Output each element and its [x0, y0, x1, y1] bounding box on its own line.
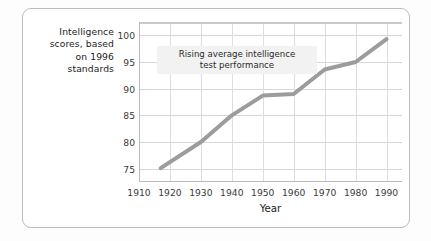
annotation-line-1: Rising average intelligence [161, 49, 313, 60]
x-axis-tick-label: 1950 [246, 187, 280, 198]
x-axis-tick-label: 1940 [215, 187, 249, 198]
x-axis-tick-label: 1980 [339, 187, 373, 198]
x-axis-tick-label: 1960 [277, 187, 311, 198]
y-axis-tick-label: 85 [101, 110, 135, 121]
x-axis-tick-label: 1910 [122, 187, 156, 198]
plot-area: Rising average intelligence test perform… [139, 22, 402, 182]
x-axis-title: Year [139, 203, 402, 214]
y-axis-tick-label: 80 [101, 137, 135, 148]
y-axis-tick-label: 90 [101, 83, 135, 94]
y-axis-tick-label: 100 [101, 30, 135, 41]
x-axis-tick-label: 1990 [370, 187, 404, 198]
y-axis-tick-label: 75 [101, 163, 135, 174]
y-axis-tick-labels: 7580859095100 [99, 22, 135, 182]
chart-annotation: Rising average intelligence test perform… [157, 46, 317, 74]
x-axis-tick-label: 1920 [153, 187, 187, 198]
x-axis-tick-labels: 191019201930194019501960197019801990 [139, 187, 402, 201]
annotation-line-2: test performance [161, 60, 313, 71]
y-axis-tick-label: 95 [101, 57, 135, 68]
x-axis-tick-label: 1970 [308, 187, 342, 198]
x-axis-tick-label: 1930 [184, 187, 218, 198]
chart-screenshot: Intelligence scores, based on 1996 stand… [0, 0, 431, 241]
